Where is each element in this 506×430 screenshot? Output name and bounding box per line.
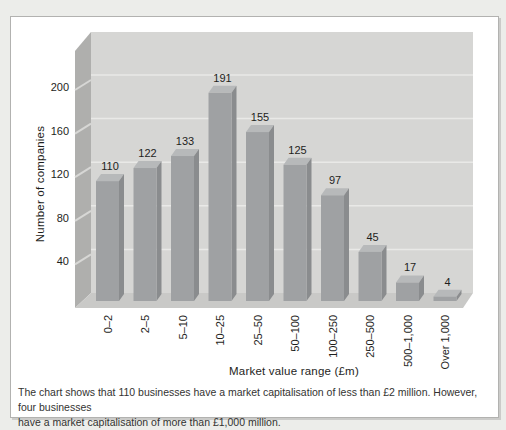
bar-side bbox=[344, 188, 349, 301]
bar-side bbox=[157, 161, 162, 301]
left-wall bbox=[75, 32, 91, 308]
y-tick-label: 160 bbox=[51, 125, 69, 137]
bar-front-3 bbox=[209, 93, 232, 301]
x-category-label: 0–2 bbox=[102, 315, 114, 333]
bar-chart-canvas: 40801201602001100–21222–51335–1019110–25… bbox=[11, 17, 500, 419]
bar-front-4 bbox=[246, 132, 269, 301]
figure-panel: 40801201602001100–21222–51335–1019110–25… bbox=[10, 16, 499, 418]
bar-side bbox=[269, 125, 274, 301]
x-category-label: 250–500 bbox=[364, 315, 376, 358]
y-tick-label: 80 bbox=[57, 212, 69, 224]
x-category-label: 100–250 bbox=[327, 315, 339, 358]
caption-line-2: have a market capitalisation of more tha… bbox=[18, 415, 490, 430]
bar-front-1 bbox=[134, 168, 157, 301]
x-category-label: 25–50 bbox=[252, 315, 264, 346]
bar-value-label: 17 bbox=[404, 261, 416, 273]
bar-side bbox=[119, 174, 124, 301]
bar-value-label: 4 bbox=[444, 276, 450, 288]
bar-value-label: 122 bbox=[138, 147, 156, 159]
bar-front-9 bbox=[434, 297, 457, 301]
bar-front-5 bbox=[284, 165, 307, 301]
x-category-label: 5–10 bbox=[177, 315, 189, 339]
x-axis-title: Market value range (£m) bbox=[184, 365, 404, 377]
bar-front-7 bbox=[359, 252, 382, 301]
bar-value-label: 97 bbox=[329, 174, 341, 186]
bar-side bbox=[382, 245, 387, 301]
bar-side bbox=[194, 149, 199, 301]
bar-value-label: 110 bbox=[101, 160, 119, 172]
y-tick-label: 40 bbox=[57, 255, 69, 267]
y-tick-label: 200 bbox=[51, 81, 69, 93]
bar-side bbox=[307, 158, 312, 301]
x-category-label: 2–5 bbox=[139, 315, 151, 333]
caption-line-1: The chart shows that 110 businesses have… bbox=[18, 385, 490, 415]
bar-front-6 bbox=[321, 195, 344, 301]
bar-value-label: 45 bbox=[366, 231, 378, 243]
bar-value-label: 155 bbox=[251, 111, 269, 123]
x-category-label: 500–1,000 bbox=[402, 315, 414, 367]
bar-front-2 bbox=[171, 156, 194, 301]
bar-front-8 bbox=[396, 282, 419, 301]
x-category-label: Over 1,000 bbox=[439, 315, 451, 369]
bar-front-0 bbox=[96, 181, 119, 301]
bar-value-label: 125 bbox=[288, 144, 306, 156]
x-category-label: 50–100 bbox=[289, 315, 301, 352]
bar-side bbox=[232, 86, 237, 301]
bar-value-label: 133 bbox=[176, 135, 194, 147]
figure-caption: The chart shows that 110 businesses have… bbox=[18, 385, 490, 430]
x-category-label: 10–25 bbox=[214, 315, 226, 346]
bar-value-label: 191 bbox=[213, 72, 231, 84]
y-axis-title: Number of companies bbox=[34, 114, 48, 254]
y-tick-label: 120 bbox=[51, 168, 69, 180]
